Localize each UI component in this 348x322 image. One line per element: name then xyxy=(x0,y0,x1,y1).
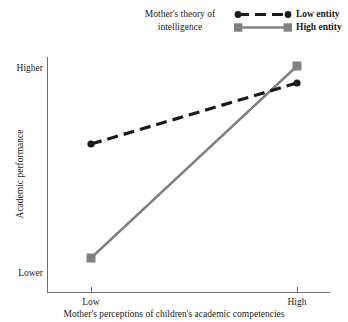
legend-title: Mother's theory of intelligence xyxy=(130,8,230,33)
x-axis-tick-low xyxy=(91,287,92,292)
series-high-entity-marker-high xyxy=(293,62,302,71)
series-low-entity xyxy=(87,79,300,147)
legend-label-low-entity: Low entity xyxy=(296,8,340,21)
legend-title-line1: Mother's theory of xyxy=(145,9,215,19)
legend-swatch-low-entity xyxy=(234,8,292,21)
legend-swatch-high-entity xyxy=(234,21,292,34)
series-low-entity-marker-low xyxy=(87,140,94,147)
y-axis-label-lower: Lower xyxy=(3,267,43,279)
series-high-entity-line xyxy=(91,66,297,258)
y-axis-title: Academic performance xyxy=(14,104,26,244)
plot-area xyxy=(0,0,348,322)
legend-label-high-entity: High entity xyxy=(296,21,342,34)
series-low-entity-line xyxy=(91,83,297,144)
x-axis-title: Mother's perceptions of children's acade… xyxy=(24,308,324,320)
y-axis-label-higher: Higher xyxy=(3,62,43,74)
legend: Mother's theory of intelligence Low enti… xyxy=(130,8,348,44)
y-axis-line xyxy=(47,57,48,293)
series-low-entity-marker-high xyxy=(293,79,300,86)
legend-item-low-entity: Low entity xyxy=(234,8,348,21)
legend-item-high-entity: High entity xyxy=(234,21,348,34)
legend-title-line2: intelligence xyxy=(158,22,202,32)
x-axis-line xyxy=(47,292,330,293)
series-high-entity xyxy=(87,62,302,263)
x-axis-tick-label-high: High xyxy=(272,296,322,308)
x-axis-tick-label-low: Low xyxy=(66,296,116,308)
chart-container: Higher Lower Academic performance Low Hi… xyxy=(0,0,348,322)
series-high-entity-marker-low xyxy=(87,254,96,263)
x-axis-tick-high xyxy=(297,287,298,292)
legend-entries: Low entity High entity xyxy=(234,8,348,34)
